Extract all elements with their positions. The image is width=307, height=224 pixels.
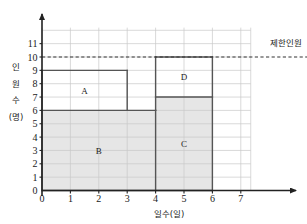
x-tick-label: 7: [238, 193, 243, 204]
y-tick-label: 1: [33, 172, 38, 183]
y-tick-label: 4: [33, 132, 38, 143]
y-tick-label: 9: [33, 65, 38, 76]
region-label-d: D: [181, 72, 188, 82]
x-tick-label: 6: [210, 193, 215, 204]
y-tick-label: 3: [33, 145, 38, 156]
region-label-c: C: [181, 139, 187, 149]
y-axis-title-char: 인: [12, 62, 20, 72]
y-tick-label: 6: [33, 105, 38, 116]
y-tick-label: 2: [33, 158, 38, 169]
x-tick-label: 5: [182, 193, 187, 204]
chart-container: 01234567 01234567891011 ABCD 일수(일) 인원수(명…: [0, 0, 307, 224]
y-tick-label: 0: [33, 185, 38, 196]
region-label-b: B: [96, 146, 102, 156]
x-tick-label: 4: [153, 193, 158, 204]
x-tick-label: 3: [125, 193, 130, 204]
region-label-a: A: [81, 86, 88, 96]
y-tick-label: 8: [33, 78, 38, 89]
y-tick-label: 5: [33, 118, 38, 129]
x-tick-label: 0: [40, 193, 45, 204]
x-tick-label: 1: [68, 193, 73, 204]
y-axis-title-char: (명): [9, 112, 24, 122]
y-axis-title-char: 원: [12, 79, 20, 89]
y-tick-label: 10: [28, 52, 38, 63]
x-tick-label: 2: [96, 193, 101, 204]
x-axis-title: 일수(일): [154, 209, 185, 219]
y-axis-title-char: 수: [12, 95, 20, 105]
y-tick-label: 7: [33, 92, 38, 103]
y-tick-labels: 01234567891011: [28, 38, 43, 196]
x-tick-labels: 01234567: [40, 191, 244, 205]
y-axis-title: 인원수(명): [9, 62, 24, 122]
limit-line-label: 제한인원: [270, 38, 302, 48]
resource-histogram-chart: 01234567 01234567891011 ABCD 일수(일) 인원수(명…: [0, 0, 307, 224]
y-tick-label: 11: [28, 38, 38, 49]
